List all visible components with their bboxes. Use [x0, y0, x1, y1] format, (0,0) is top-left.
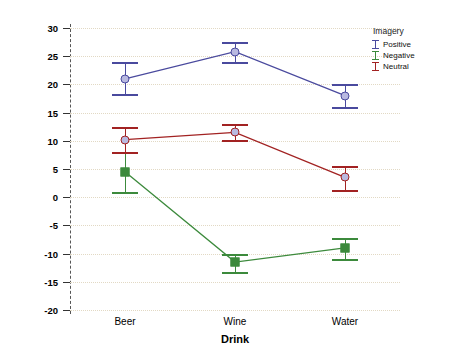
data-point-marker: [231, 47, 240, 56]
data-point-marker: [231, 258, 240, 267]
x-axis-tick-label: Beer: [114, 316, 135, 327]
legend-swatch-negative: [372, 51, 379, 60]
plot-area: [70, 28, 400, 310]
error-bar-cap: [222, 62, 248, 64]
mean-attitude-line-chart: 302520151050-5-10-15-20 Mean Attitude Be…: [0, 0, 469, 358]
error-bar-cap: [222, 254, 248, 256]
y-axis-tick-label: -5: [32, 220, 58, 231]
error-bar-cap: [112, 192, 138, 194]
legend-entries: PositiveNegativeNeutral: [372, 39, 464, 71]
x-axis-tick-label: Water: [332, 316, 358, 327]
data-point-marker: [231, 128, 240, 137]
y-axis-tick-label: -20: [32, 305, 58, 316]
data-point-marker: [121, 74, 130, 83]
legend-entry-neutral: Neutral: [372, 61, 464, 71]
series-line-negative: [125, 172, 345, 262]
legend-title: Imagery: [372, 26, 464, 36]
legend-entry-negative: Negative: [372, 50, 464, 60]
error-bar-cap: [222, 272, 248, 274]
legend-swatch-neutral: [372, 62, 379, 71]
error-bar-cap: [332, 190, 358, 192]
error-bar-cap: [332, 107, 358, 109]
x-axis-title: Drink: [221, 333, 249, 345]
y-axis-tick-label: 25: [32, 51, 58, 62]
data-point-marker: [121, 167, 130, 176]
y-axis-tick-label: 15: [32, 107, 58, 118]
data-point-marker: [341, 91, 350, 100]
error-bar-cap: [222, 124, 248, 126]
error-bar-cap: [332, 84, 358, 86]
error-bar-cap: [112, 94, 138, 96]
y-axis-tick-label: 0: [32, 192, 58, 203]
legend: Imagery PositiveNegativeNeutral: [372, 26, 464, 72]
legend-label: Negative: [383, 51, 415, 60]
error-bar-cap: [332, 238, 358, 240]
error-bar-cap: [112, 127, 138, 129]
y-axis-tick-label: -10: [32, 248, 58, 259]
y-axis-tick-label: 10: [32, 135, 58, 146]
error-bar-cap: [112, 62, 138, 64]
error-bar-cap: [332, 259, 358, 261]
error-bar-cap: [222, 140, 248, 142]
y-axis-tick-labels: 302520151050-5-10-15-20: [28, 0, 58, 358]
data-point-marker: [341, 243, 350, 252]
legend-swatch-positive: [372, 40, 379, 49]
y-axis-tick-label: -15: [32, 276, 58, 287]
error-bar-cap: [332, 166, 358, 168]
error-bar-cap: [112, 152, 138, 154]
legend-label: Neutral: [383, 62, 409, 71]
error-bar-cap: [222, 42, 248, 44]
data-point-marker: [121, 135, 130, 144]
gridline: [70, 310, 400, 311]
x-axis-tick-label: Wine: [224, 316, 247, 327]
legend-entry-positive: Positive: [372, 39, 464, 49]
legend-label: Positive: [383, 40, 411, 49]
y-axis-tick-label: 5: [32, 164, 58, 175]
y-axis-tick-label: 30: [32, 23, 58, 34]
y-axis-tick-label: 20: [32, 79, 58, 90]
data-point-marker: [341, 173, 350, 182]
